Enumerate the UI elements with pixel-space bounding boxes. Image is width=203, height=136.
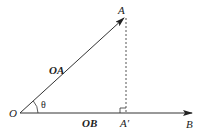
angle-arc	[33, 101, 38, 113]
right-angle-mark	[120, 108, 126, 113]
vector-oa-label: OA	[49, 65, 64, 76]
angle-theta-label: θ	[41, 100, 46, 110]
point-o-label: O	[9, 108, 17, 119]
vector-oa-line	[20, 18, 124, 113]
point-b-label: B	[186, 119, 193, 130]
point-a-prime-label: A′	[120, 118, 129, 129]
vector-ob-label: OB	[82, 118, 97, 129]
projection-diagram: A OA θ O OB A′ B	[0, 0, 203, 136]
point-a-label: A	[118, 5, 125, 16]
diagram-svg	[0, 0, 203, 136]
